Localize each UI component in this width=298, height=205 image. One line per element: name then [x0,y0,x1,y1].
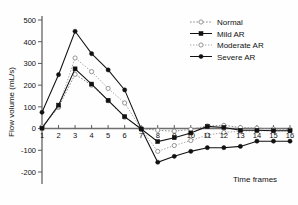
chart-canvas: 5004003002001000-100-2001234567891011121… [0,0,298,205]
y-tick-label: 0 [32,124,36,133]
y-tick-label: 300 [23,59,36,68]
data-point [205,146,209,150]
x-tick-label: 5 [106,131,110,140]
y-tick-label: 500 [23,16,36,25]
legend-swatch-marker [199,43,203,47]
x-tick-label: 3 [73,131,77,140]
data-point [205,124,209,128]
data-point [222,125,226,129]
data-point [288,139,292,143]
data-point [57,103,61,107]
data-point [172,154,176,158]
data-point [238,144,242,148]
x-axis-title: Time frames [233,175,277,184]
data-point [73,56,77,60]
data-point [271,139,275,143]
data-point [90,82,94,86]
legend-swatch-marker [199,20,203,24]
data-point [156,160,160,164]
x-tick-label: 9 [172,131,176,140]
data-point [123,115,127,119]
x-tick-label: 15 [269,131,277,140]
y-tick-label: 100 [23,103,36,112]
y-tick-label: -200 [21,168,36,177]
x-tick-label: 10 [187,131,195,140]
y-tick-label: 400 [23,38,36,47]
x-tick-label: 7 [139,131,143,140]
y-axis-title: Flow volume (mL/s) [7,67,16,137]
data-point [90,52,94,56]
x-tick-label: 12 [220,131,228,140]
legend-item-moderate-ar[interactable]: Moderate AR [190,41,264,50]
legend-item-mild-ar[interactable]: Mild AR [190,30,245,39]
data-point [123,88,127,92]
data-point [156,149,160,153]
data-point [106,98,110,102]
data-point [106,68,110,72]
x-tick-label: 16 [286,131,294,140]
series-line [42,74,290,131]
x-tick-label: 13 [236,131,244,140]
x-tick-label: 4 [90,131,94,140]
data-point [123,101,127,105]
series-line [42,31,290,162]
x-tick-label: 1 [40,131,44,140]
data-point [189,149,193,153]
x-tick-label: 2 [56,131,60,140]
y-tick-label: -100 [21,146,36,155]
data-point [222,146,226,150]
legend-item-normal[interactable]: Normal [190,18,243,27]
data-point [255,139,259,143]
data-point [90,70,94,74]
x-tick-label: 6 [123,131,127,140]
data-point [156,140,160,144]
legend-swatch-marker [199,32,203,36]
chart-legend[interactable]: NormalMild ARModerate ARSevere AR [190,18,264,62]
data-point [73,29,77,33]
data-point [40,110,44,114]
flow-volume-chart: 5004003002001000-100-2001234567891011121… [0,0,298,205]
x-tick-label: 11 [203,131,211,140]
data-point [172,143,176,147]
data-point [106,86,110,90]
series-normal [40,72,292,133]
legend-label: Moderate AR [217,41,264,50]
y-tick-label: 200 [23,81,36,90]
data-point [56,73,60,77]
legend-item-severe-ar[interactable]: Severe AR [190,53,255,62]
data-point [73,67,77,71]
x-tick-label: 14 [253,131,261,140]
legend-swatch-marker [199,54,203,58]
legend-label: Mild AR [217,30,245,39]
x-tick-label: 8 [156,131,160,140]
legend-label: Severe AR [217,53,255,62]
legend-label: Normal [217,18,243,27]
data-point [40,126,44,130]
